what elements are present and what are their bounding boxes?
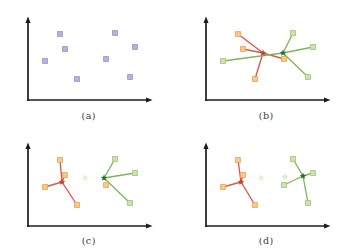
panel-b: (b) bbox=[178, 0, 355, 126]
panel-d-plot bbox=[178, 126, 355, 251]
panel-a-caption: (a) bbox=[0, 111, 178, 121]
data-point-orange bbox=[240, 172, 245, 177]
data-point-green bbox=[281, 182, 286, 187]
assignment-edge-red bbox=[238, 160, 241, 182]
data-point-orange bbox=[75, 202, 80, 207]
data-point-orange bbox=[43, 184, 48, 189]
panel-d-caption: (d) bbox=[178, 236, 355, 246]
data-point-lavender bbox=[113, 31, 118, 36]
panel-c-caption: (c) bbox=[0, 236, 178, 246]
data-point-orange bbox=[104, 182, 109, 187]
assignment-edge-green bbox=[104, 178, 130, 203]
data-point-lavender bbox=[133, 45, 138, 50]
data-point-green bbox=[290, 156, 295, 161]
previous-centroid-ghost bbox=[81, 174, 88, 181]
data-point-orange bbox=[235, 157, 240, 162]
data-point-green bbox=[305, 200, 310, 205]
previous-centroid-ghost bbox=[281, 173, 288, 180]
assignment-edge-red bbox=[62, 182, 77, 205]
data-point-lavender bbox=[128, 75, 133, 80]
data-point-orange bbox=[63, 172, 68, 177]
kmeans-clustering-figure: (a) (b) (c) (d) bbox=[0, 0, 355, 251]
data-point-orange bbox=[240, 47, 245, 52]
panel-b-caption: (b) bbox=[178, 111, 355, 121]
data-point-green bbox=[310, 170, 315, 175]
panel-c-plot bbox=[0, 126, 178, 251]
data-point-orange bbox=[220, 184, 225, 189]
data-point-orange bbox=[281, 57, 286, 62]
data-point-orange bbox=[252, 77, 257, 82]
axis-y-arrow-icon bbox=[25, 17, 30, 24]
assignment-edge-green bbox=[104, 173, 135, 178]
assignment-edge-green bbox=[303, 176, 308, 203]
data-point-lavender bbox=[43, 59, 48, 64]
data-point-lavender bbox=[58, 32, 63, 37]
assignment-edge-green bbox=[283, 33, 293, 53]
previous-centroid-ghost bbox=[257, 174, 264, 181]
axis-x-arrow-icon bbox=[324, 97, 331, 102]
assignment-edge-green bbox=[283, 47, 313, 53]
axis-x-arrow-icon bbox=[146, 97, 153, 102]
assignment-edge-red bbox=[60, 160, 62, 182]
axis-x-arrow-icon bbox=[146, 223, 153, 228]
data-point-green bbox=[220, 59, 225, 64]
axis-y-arrow-icon bbox=[25, 142, 30, 149]
data-point-lavender bbox=[75, 77, 80, 82]
data-point-green bbox=[133, 170, 138, 175]
data-point-green bbox=[290, 31, 295, 36]
axis-x-arrow-icon bbox=[324, 223, 331, 228]
data-point-orange bbox=[58, 157, 63, 162]
data-point-lavender bbox=[63, 47, 68, 52]
panel-c: (c) bbox=[0, 126, 178, 251]
axis-y-arrow-icon bbox=[203, 142, 208, 149]
data-point-green bbox=[113, 156, 118, 161]
assignment-edge-red bbox=[241, 182, 255, 205]
axis-y-arrow-icon bbox=[203, 17, 208, 24]
data-point-green bbox=[128, 200, 133, 205]
data-point-orange bbox=[235, 32, 240, 37]
panel-d: (d) bbox=[178, 126, 355, 251]
panel-a-plot bbox=[0, 0, 178, 126]
data-point-orange bbox=[252, 202, 257, 207]
panel-b-plot bbox=[178, 0, 355, 126]
panel-a: (a) bbox=[0, 0, 178, 126]
data-point-green bbox=[310, 45, 315, 50]
centroid-red bbox=[59, 178, 65, 184]
assignment-edge-green bbox=[104, 159, 115, 178]
centroid-red bbox=[237, 178, 243, 184]
assignment-edge-green bbox=[223, 53, 283, 61]
data-point-lavender bbox=[104, 57, 109, 62]
data-point-green bbox=[305, 75, 310, 80]
